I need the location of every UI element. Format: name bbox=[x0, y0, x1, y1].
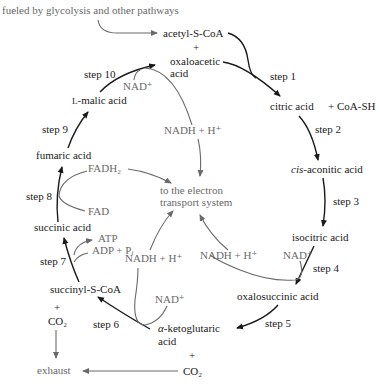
acetyl-scoa-label: acetyl-S-CoA bbox=[163, 27, 224, 39]
oxaloacetic-label: oxaloacetic bbox=[170, 55, 220, 67]
citric-acid-label: citric acid bbox=[270, 100, 314, 112]
fad-curve-icon bbox=[59, 171, 87, 211]
isocitric-acid-label: isocitric acid bbox=[292, 231, 349, 243]
exhaust-label: exhaust bbox=[37, 364, 71, 376]
nadh-step6-label: NADH + H⁺ bbox=[125, 252, 182, 264]
nad-step10-label: NAD⁺ bbox=[123, 80, 153, 92]
nad-step6-label: NAD⁺ bbox=[155, 293, 185, 305]
aconitic-rest: -aconitic acid bbox=[303, 163, 363, 175]
ets-line2-label: transport system bbox=[160, 196, 233, 208]
step-1-label: step 1 bbox=[270, 70, 296, 82]
cis-prefix: cis bbox=[291, 163, 303, 175]
ets-line1-label: to the electron bbox=[160, 184, 223, 196]
step9-arrow-icon bbox=[68, 112, 88, 148]
step-2-label: step 2 bbox=[315, 123, 341, 135]
atp-label: ATP bbox=[98, 232, 118, 244]
succinic-acid-label: succinic acid bbox=[34, 221, 92, 233]
oxaloacetic-acid-label: acid bbox=[170, 67, 189, 79]
alpha-ketoglutaric-acid-label: acid bbox=[158, 335, 177, 347]
co2-left-label: CO₂ bbox=[48, 315, 67, 327]
nadh-step10-label: NADH + H⁺ bbox=[164, 124, 221, 136]
fadh2-label: FADH₂ bbox=[88, 162, 121, 174]
alpha-ketoglutaric-label: α-ketoglutaric bbox=[158, 322, 220, 334]
step-10-label: step 10 bbox=[84, 68, 116, 80]
step-8-label: step 8 bbox=[26, 190, 52, 202]
plus-label: + bbox=[193, 41, 199, 53]
step-9-label: step 9 bbox=[42, 123, 68, 135]
nadh-step10-to-ets-arrow-icon bbox=[198, 139, 201, 176]
source-arrow-icon bbox=[98, 20, 157, 33]
krebs-cycle-diagram: fueled by glycolysis and other pathways … bbox=[0, 0, 383, 390]
l-malic-acid-label: L-malic acid bbox=[72, 94, 127, 106]
adp-curve-icon bbox=[74, 253, 88, 262]
nad-step4-label: NAD⁺ bbox=[283, 249, 313, 261]
nad-step10-tick-icon bbox=[134, 70, 140, 80]
coa-sh-label: + CoA-SH bbox=[328, 100, 376, 112]
malic-rest: -malic acid bbox=[78, 94, 128, 106]
nadh-step4-to-ets-arrow-icon bbox=[200, 215, 228, 250]
succinyl-scoa-label: succinyl-S-CoA bbox=[50, 283, 121, 295]
nadh-step6-to-ets-arrow-icon bbox=[150, 211, 173, 250]
fumaric-acid-label: fumaric acid bbox=[36, 149, 92, 161]
step7-arrow-icon bbox=[64, 238, 79, 282]
step-7-label: step 7 bbox=[40, 255, 66, 267]
oxalosuccinic-acid-label: oxalosuccinic acid bbox=[237, 290, 319, 302]
atp-arrow-icon bbox=[74, 240, 92, 255]
step-4-label: step 4 bbox=[313, 262, 339, 274]
fad-label: FAD bbox=[88, 205, 109, 217]
step-6-label: step 6 bbox=[93, 318, 119, 330]
step1-arrow-a-icon bbox=[228, 33, 256, 78]
step-3-label: step 3 bbox=[333, 195, 359, 207]
fadh2-to-ets-arrow-icon bbox=[128, 169, 171, 183]
cis-aconitic-acid-label: cis-aconitic acid bbox=[291, 163, 363, 175]
nadh-step4-label: NADH + H⁺ bbox=[200, 249, 257, 261]
plus-co2-right-label: + bbox=[189, 349, 195, 361]
ketoglutaric-rest: -ketoglutaric bbox=[164, 322, 220, 334]
co2-right-label: CO₂ bbox=[183, 365, 202, 377]
step3-arrow-icon bbox=[323, 178, 325, 226]
adp-pi-label: ADP + Pᵢ bbox=[92, 244, 133, 256]
plus-co2-left-label: + bbox=[54, 301, 60, 313]
glycolysis-source-label: fueled by glycolysis and other pathways bbox=[2, 4, 179, 16]
step-5-label: step 5 bbox=[265, 317, 291, 329]
